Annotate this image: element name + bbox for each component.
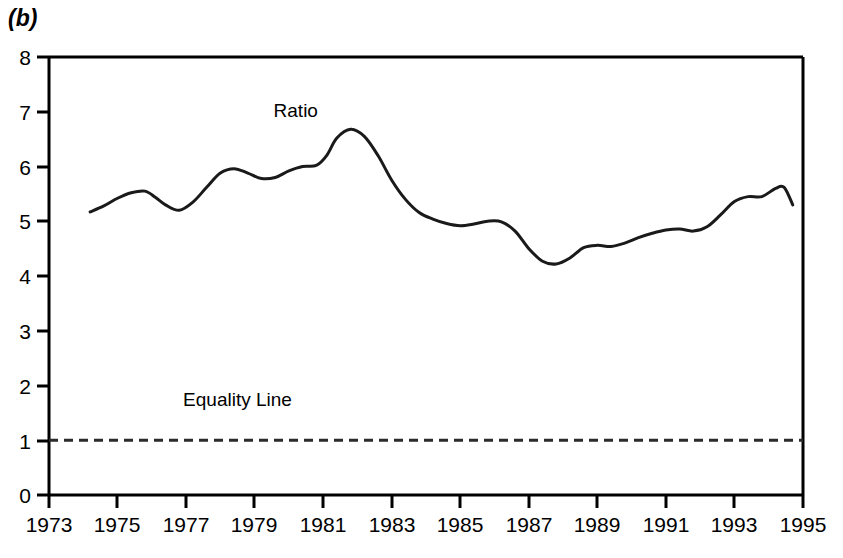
- y-tick-label-4: 4: [19, 265, 31, 288]
- x-tick-label-1987: 1987: [506, 513, 553, 536]
- equality-line-label: Equality Line: [183, 389, 292, 410]
- y-tick-label-7: 7: [19, 101, 31, 124]
- x-tick-label-1989: 1989: [574, 513, 621, 536]
- x-tick-label-1975: 1975: [94, 513, 141, 536]
- y-tick-label-1: 1: [19, 430, 31, 453]
- x-tick-label-1991: 1991: [643, 513, 690, 536]
- ratio-line-chart: 8 7 6 5 4 3 2 1 0 1973 1: [0, 0, 843, 558]
- x-tick-label-1973: 1973: [26, 513, 73, 536]
- y-axis-ticks: [37, 57, 49, 495]
- figure-panel-b: (b) 8 7 6 5 4 3 2: [0, 0, 843, 558]
- x-tick-label-1979: 1979: [231, 513, 278, 536]
- x-tick-label-1977: 1977: [163, 513, 210, 536]
- x-tick-label-1985: 1985: [437, 513, 484, 536]
- y-tick-label-3: 3: [19, 320, 31, 343]
- y-tick-label-5: 5: [19, 210, 31, 233]
- plot-frame: [49, 57, 803, 495]
- y-tick-label-2: 2: [19, 375, 31, 398]
- y-tick-label-8: 8: [19, 46, 31, 69]
- x-tick-label-1995: 1995: [780, 513, 827, 536]
- x-tick-label-1983: 1983: [369, 513, 416, 536]
- ratio-line-series: [90, 129, 793, 264]
- y-axis-labels: 8 7 6 5 4 3 2 1 0: [19, 46, 31, 507]
- x-tick-label-1993: 1993: [711, 513, 758, 536]
- y-tick-label-0: 0: [19, 484, 31, 507]
- ratio-series-label: Ratio: [274, 100, 318, 121]
- x-tick-label-1981: 1981: [300, 513, 347, 536]
- x-axis-ticks: [49, 495, 803, 508]
- y-tick-label-6: 6: [19, 156, 31, 179]
- x-axis-labels: 1973 1975 1977 1979 1981 1983 1985 1987 …: [26, 513, 827, 536]
